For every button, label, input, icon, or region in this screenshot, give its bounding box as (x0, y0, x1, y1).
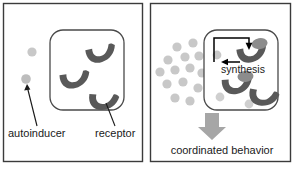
autoinducer-dot (178, 77, 187, 86)
quorum-sensing-figure: autoinducer receptor (0, 0, 294, 170)
autoinducer-dot (185, 96, 194, 105)
autoinducer-label: autoinducer (8, 127, 66, 139)
autoinducer-dot (216, 93, 225, 102)
autoinducer-dot (163, 55, 172, 64)
synthesis-label: synthesis (221, 63, 265, 75)
coordinated-behavior-label: coordinated behavior (171, 144, 274, 156)
figure-canvas: autoinducer receptor (0, 0, 294, 170)
autoinducer-dot (193, 83, 202, 92)
autoinducer-dot (27, 47, 36, 56)
autoinducer-dot (162, 79, 171, 88)
autoinducer-dot (21, 74, 31, 84)
autoinducer-dot (180, 52, 189, 61)
autoinducer-dot (155, 67, 164, 76)
receptor-label: receptor (95, 127, 136, 139)
autoinducer-dot (185, 63, 194, 72)
autoinducer-dot (172, 42, 181, 51)
autoinducer-dot (194, 51, 203, 60)
autoinducer-dot (170, 65, 179, 74)
autoinducer-dot (170, 93, 179, 102)
autoinducer-dot (188, 38, 197, 47)
